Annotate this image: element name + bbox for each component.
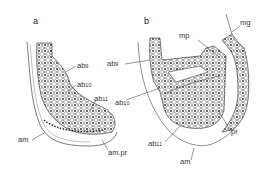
panel-b-drawing bbox=[138, 14, 249, 146]
label-a-am: am bbox=[18, 136, 28, 144]
label-b-ab10: ab10 bbox=[115, 99, 129, 107]
label-a-ab11: ab11 bbox=[94, 95, 108, 103]
panel-a-abdomen bbox=[37, 43, 115, 134]
label-b-mp: mp bbox=[179, 32, 189, 40]
label-b-ab9: ab9 bbox=[107, 60, 118, 68]
label-b-am: am bbox=[180, 158, 190, 166]
label-a-ab10: ab10 bbox=[77, 81, 91, 89]
label-a-ab9: ab9 bbox=[77, 62, 88, 70]
embryo-section-figure bbox=[0, 0, 273, 173]
panel-b-proctodeum bbox=[222, 34, 249, 132]
panel-b-letter: b bbox=[144, 17, 149, 26]
label-b-mg: mg bbox=[240, 19, 250, 27]
panel-b-ab9 bbox=[150, 38, 226, 128]
panel-a-drawing bbox=[27, 42, 117, 146]
panel-a-letter: a bbox=[33, 17, 38, 26]
label-b-pr: pr bbox=[231, 128, 238, 136]
label-a-am-pr: am.pr bbox=[108, 149, 127, 157]
label-b-ab11: ab11 bbox=[148, 140, 162, 148]
